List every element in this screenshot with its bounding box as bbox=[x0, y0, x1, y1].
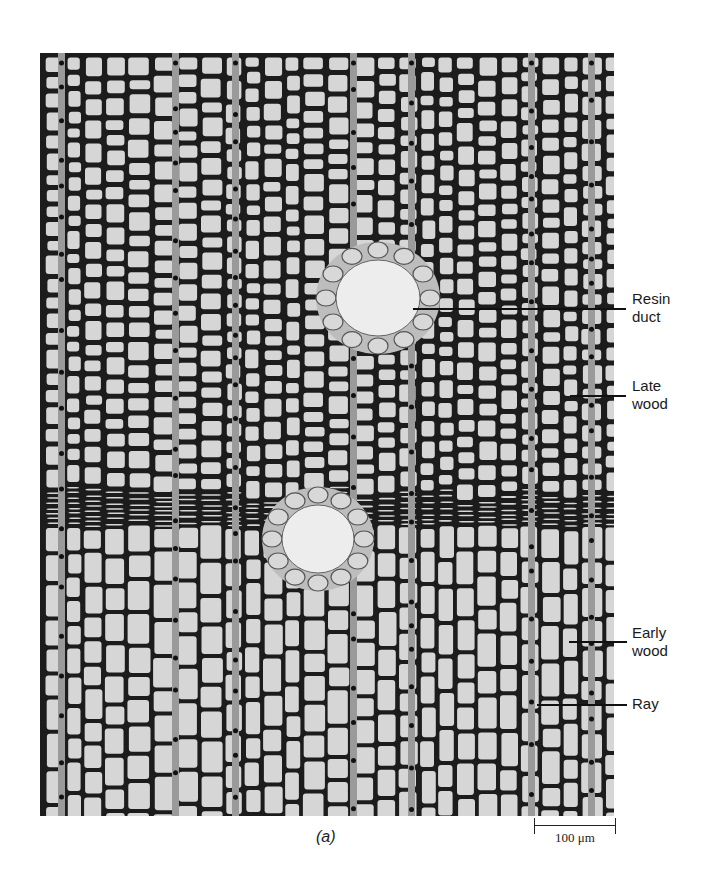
scale-bar-line bbox=[534, 825, 616, 826]
ray-label: Ray bbox=[632, 695, 659, 713]
resin-duct-leader-line bbox=[413, 308, 626, 310]
scale-bar-label: 100 μm bbox=[534, 830, 616, 846]
ray-leader-line bbox=[537, 704, 627, 706]
early-wood-leader-line bbox=[569, 641, 627, 643]
early-wood-label: Early wood bbox=[632, 624, 668, 660]
wood-cross-section-micrograph bbox=[40, 53, 614, 816]
resin-duct-label: Resin duct bbox=[632, 290, 670, 326]
late-wood-leader-line bbox=[570, 395, 626, 397]
late-wood-label: Late wood bbox=[632, 377, 668, 413]
cell-pattern bbox=[40, 53, 614, 816]
panel-label: (a) bbox=[316, 828, 336, 846]
figure: Resin duct Late wood Early wood Ray (a) … bbox=[0, 0, 720, 885]
